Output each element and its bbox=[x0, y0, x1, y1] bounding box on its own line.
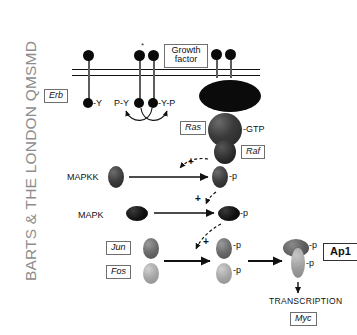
mapk-inactive bbox=[126, 206, 148, 221]
fos-phospho-label: -p bbox=[233, 266, 241, 275]
ap1-phospho-label-top: -p bbox=[309, 241, 317, 250]
mapkk-activation-plus: + bbox=[188, 157, 194, 167]
mapkk-phospho-label: -p bbox=[229, 172, 237, 181]
mapkk-inactive bbox=[108, 166, 124, 188]
jun-phosphorylated bbox=[216, 238, 232, 259]
mapkk-to-mapk-activation-arrow bbox=[206, 192, 216, 204]
ligand-dot-middle-right bbox=[148, 50, 159, 61]
ap1-label: Ap1 bbox=[323, 243, 357, 261]
plasma-membrane bbox=[72, 69, 260, 76]
mapk-activation-plus: + bbox=[195, 194, 201, 204]
growth-factor-label-line2: factor bbox=[175, 54, 198, 64]
mapkk-label: MAPKK bbox=[67, 173, 99, 182]
erb-label: Erb bbox=[44, 89, 68, 103]
jun-label: Jun bbox=[106, 241, 131, 255]
fos-protein bbox=[143, 263, 159, 284]
mapkk-active bbox=[212, 166, 228, 188]
phosphotyrosine-dot-right bbox=[148, 98, 158, 108]
fos-phosphorylated bbox=[216, 263, 232, 284]
institution-watermark: BARTS & THE LONDON QMSMD bbox=[22, 6, 40, 316]
activated-receptor-body bbox=[199, 80, 261, 112]
phosphotyrosine-dot-left bbox=[134, 98, 144, 108]
jun-phospho-label: -p bbox=[233, 241, 241, 250]
transphosphorylation-arrow-right bbox=[141, 108, 167, 120]
ligand-dot-left bbox=[83, 50, 94, 61]
mapk-label: MAPK bbox=[78, 211, 104, 220]
ras-label: Ras bbox=[180, 121, 206, 135]
mapk-phospho-label: -p bbox=[240, 209, 248, 218]
ligand-dot-middle-left bbox=[134, 50, 145, 61]
gtp-label: -GTP bbox=[243, 125, 265, 134]
myc-label: Myc bbox=[290, 312, 317, 326]
phosphotyrosine-label-right: -Y-P bbox=[158, 99, 175, 108]
ap1-phospho-label-bottom: -p bbox=[306, 259, 314, 268]
jun-activation-plus: + bbox=[203, 237, 209, 247]
ligand-dot-right-left bbox=[211, 49, 222, 60]
signalling-pathway-diagram: BARTS & THE LONDON QMSMD -Y Erb * P-Y -Y… bbox=[0, 0, 357, 335]
ligand-asterisk-marker: * bbox=[141, 42, 144, 50]
jun-protein bbox=[143, 238, 159, 259]
growth-factor-label: Growth factor bbox=[164, 44, 208, 68]
receptor-stalk-left bbox=[88, 57, 90, 104]
fos-label: Fos bbox=[106, 265, 131, 279]
tyrosine-label-left: -Y bbox=[93, 99, 102, 108]
receptor-tail-dot-left bbox=[83, 98, 93, 108]
phosphotyrosine-label-left: P-Y bbox=[114, 99, 129, 108]
mapk-active bbox=[218, 206, 240, 221]
raf-to-mapkk-activation-arrow bbox=[180, 158, 208, 168]
ligand-dot-right-right bbox=[225, 49, 236, 60]
transphosphorylation-arrow-left bbox=[126, 108, 152, 120]
ap1-fos-subunit bbox=[291, 248, 305, 278]
transcription-label: TRANSCRIPTION bbox=[269, 297, 342, 306]
raf-protein bbox=[214, 140, 236, 164]
raf-label: Raf bbox=[241, 145, 265, 159]
